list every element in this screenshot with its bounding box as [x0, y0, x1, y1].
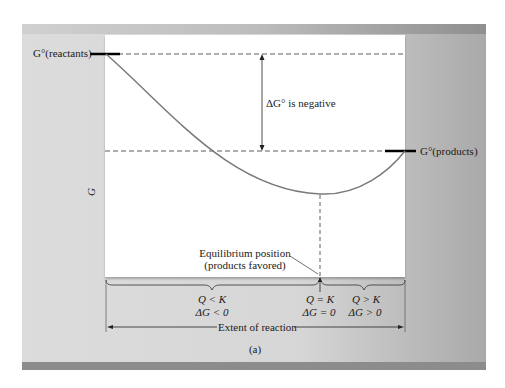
- g-products-label: G°(products): [420, 145, 478, 157]
- delta-g-arrowhead-up: [260, 54, 265, 60]
- delta-g-standard-label: ΔG° is negative: [266, 97, 336, 109]
- brace-q-greater-k: [321, 280, 405, 290]
- arrowhead-left-icon: [107, 325, 113, 329]
- brace-q-less-k: [106, 280, 319, 290]
- region-qgreaterk-deltag: ΔG > 0: [340, 306, 390, 318]
- figure-caption: (a): [240, 343, 270, 355]
- region-qeqk-condition: Q = K: [298, 293, 342, 305]
- equilibrium-label-line2: (products favored): [195, 259, 295, 271]
- g-reactants-label: G°(reactants): [33, 47, 92, 59]
- x-axis-label: Extent of reaction: [218, 321, 294, 333]
- region-qgreaterk-condition: Q > K: [344, 293, 388, 305]
- region-qlessk-deltag: ΔG < 0: [188, 306, 236, 318]
- arrowhead-right-icon: [398, 325, 404, 329]
- equilibrium-label: Equilibrium position (products favored): [195, 247, 295, 271]
- equilibrium-label-line1: Equilibrium position: [195, 247, 295, 259]
- region-qeqk-deltag: ΔG = 0: [294, 306, 344, 318]
- delta-g-arrowhead-down: [260, 145, 265, 151]
- y-axis-label: G: [85, 188, 97, 196]
- region-qlessk-condition: Q < K: [192, 293, 232, 305]
- diagram-stage: G°(reactants) G°(products) ΔG° is negati…: [0, 0, 505, 388]
- free-energy-curve: [106, 54, 405, 194]
